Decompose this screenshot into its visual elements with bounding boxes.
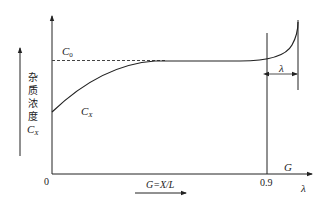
concentration-curve bbox=[52, 22, 298, 112]
zone-label-lambda: λ bbox=[279, 63, 284, 74]
y-axis-label-char-2: 质 bbox=[28, 86, 38, 96]
y-axis-label-symbol-sub: X bbox=[34, 129, 38, 137]
c0-label-sub: 0 bbox=[69, 51, 73, 59]
y-axis-label-symbol: CX bbox=[27, 124, 39, 137]
y-axis-label-char-3: 浓 bbox=[28, 99, 38, 109]
x-axis-label-g: G bbox=[284, 162, 292, 173]
y-axis-label-char-1: 杂 bbox=[28, 73, 38, 83]
curve-label: CX bbox=[81, 106, 93, 119]
x-tick-label-0-9: 0.9 bbox=[260, 178, 273, 188]
curve-label-sub: X bbox=[88, 111, 92, 119]
origin-label: 0 bbox=[44, 177, 49, 187]
x-axis-label-lambda: λ bbox=[301, 183, 306, 194]
c0-label: C0 bbox=[62, 46, 73, 59]
y-axis-label-char-4: 度 bbox=[28, 112, 38, 122]
bottom-formula: G=X/L bbox=[146, 180, 174, 190]
